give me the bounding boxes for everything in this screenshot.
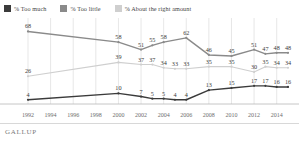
data-point (185, 37, 187, 39)
x-tick-label: 1992 (22, 112, 34, 118)
plot-area: 6858515558624645514748482639373734333335… (0, 18, 299, 110)
data-label: 68 (25, 22, 31, 29)
data-point (253, 49, 255, 51)
data-label: 34 (285, 59, 291, 66)
data-label: 37 (138, 56, 144, 63)
data-label: 4 (173, 91, 176, 98)
data-point (117, 61, 119, 63)
data-point (27, 30, 29, 32)
legend-swatch-icon (4, 5, 11, 12)
data-label: 58 (115, 33, 121, 40)
x-tick-label: 2010 (225, 112, 237, 118)
data-point (174, 68, 176, 70)
data-label: 17 (262, 77, 268, 84)
data-label: 33 (172, 60, 178, 67)
data-label: 16 (285, 78, 291, 85)
series-line-2 (28, 86, 288, 100)
x-tick-label: 1996 (67, 112, 79, 118)
data-point (151, 44, 153, 46)
data-label: 5 (162, 90, 165, 97)
data-label: 4 (26, 91, 29, 98)
data-label: 15 (228, 79, 234, 86)
data-point (185, 99, 187, 101)
data-label: 17 (251, 77, 257, 84)
data-point (208, 66, 210, 68)
data-point (117, 92, 119, 94)
data-point (151, 98, 153, 100)
x-tick-label: 2002 (135, 112, 147, 118)
data-label: 55 (149, 36, 155, 43)
gallup-logo: GALLUP (5, 128, 37, 136)
data-point (264, 53, 266, 55)
x-tick-label: 2008 (203, 112, 215, 118)
chart-legend: % Too much% Too little% About the right … (4, 2, 296, 14)
data-point (276, 52, 278, 54)
data-label: 35 (206, 58, 212, 65)
data-point (287, 52, 289, 54)
data-label: 5 (151, 90, 154, 97)
series-line-1 (28, 62, 288, 76)
data-point (276, 86, 278, 88)
data-label: 26 (25, 67, 31, 74)
data-point (230, 66, 232, 68)
data-label: 30 (251, 63, 257, 70)
data-point (287, 86, 289, 88)
data-point (163, 41, 165, 43)
data-label: 46 (206, 46, 212, 53)
data-label: 35 (228, 58, 234, 65)
data-label: 47 (262, 45, 268, 52)
legend-swatch-icon (115, 5, 122, 12)
data-point (117, 41, 119, 43)
data-point (264, 85, 266, 87)
x-tick-label: 2014 (271, 112, 283, 118)
data-label: 39 (115, 53, 121, 60)
data-label: 35 (262, 58, 268, 65)
legend-label: % Too little (70, 5, 100, 12)
data-label: 48 (285, 44, 291, 51)
data-label: 45 (228, 47, 234, 54)
data-label: 33 (183, 60, 189, 67)
legend-item-too_little: % Too little (60, 5, 100, 12)
data-point (140, 49, 142, 51)
data-point (276, 67, 278, 69)
legend-label: % Too much (14, 5, 46, 12)
data-point (253, 71, 255, 73)
data-point (27, 75, 29, 77)
data-label: 4 (185, 91, 188, 98)
data-point (208, 89, 210, 91)
data-label: 48 (274, 44, 280, 51)
data-label: 37 (149, 56, 155, 63)
data-point (253, 85, 255, 87)
data-point (140, 95, 142, 97)
data-point (151, 63, 153, 65)
footer-divider (0, 123, 299, 124)
data-label: 62 (183, 29, 189, 36)
data-point (174, 99, 176, 101)
data-label: 7 (139, 88, 142, 95)
data-point (185, 68, 187, 70)
data-label: 13 (206, 81, 212, 88)
data-point (27, 99, 29, 101)
data-label: 34 (274, 59, 280, 66)
data-point (230, 87, 232, 89)
legend-label: % About the right amount (125, 5, 192, 12)
x-tick-label: 2004 (158, 112, 170, 118)
data-label: 10 (115, 84, 121, 91)
data-label: 58 (161, 33, 167, 40)
x-tick-label: 2012 (248, 112, 260, 118)
data-label: 51 (251, 41, 257, 48)
data-label: 34 (161, 59, 167, 66)
x-axis: 1992199419961998200020022004200620082010… (0, 110, 299, 124)
data-label: 16 (274, 78, 280, 85)
data-point (264, 66, 266, 68)
legend-item-about_right: % About the right amount (115, 5, 192, 12)
series-line-0 (28, 31, 288, 56)
data-label: 51 (138, 41, 144, 48)
data-point (140, 63, 142, 65)
x-tick-label: 1994 (45, 112, 57, 118)
data-point (163, 98, 165, 100)
legend-swatch-icon (60, 5, 67, 12)
x-tick-label: 1998 (90, 112, 102, 118)
legend-item-too_much: % Too much (4, 5, 46, 12)
data-point (163, 67, 165, 69)
